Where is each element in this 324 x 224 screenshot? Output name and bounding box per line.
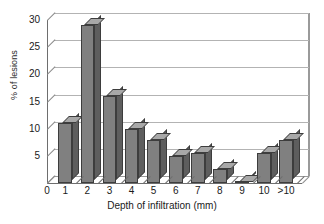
y-tick-connector-5 bbox=[47, 156, 57, 166]
bar-front-face bbox=[257, 153, 271, 183]
plot-area bbox=[47, 13, 309, 183]
y-axis-tick-labels: 51015202530 bbox=[18, 0, 40, 224]
x-tick-label->10: >10 bbox=[272, 186, 300, 196]
y-tick-connector-10 bbox=[47, 129, 57, 139]
plot-right-edge bbox=[309, 13, 310, 176]
y-tick-label-25: 25 bbox=[18, 42, 40, 52]
bar-6 bbox=[169, 156, 183, 183]
y-tick-label-5: 5 bbox=[18, 151, 40, 161]
bar-front-face bbox=[191, 153, 205, 183]
y-tick-label-15: 15 bbox=[18, 97, 40, 107]
bar-1 bbox=[58, 123, 72, 183]
bar-side-face bbox=[94, 15, 101, 180]
bar-chart: % of lesions 51015202530 012345678910>10… bbox=[0, 0, 324, 224]
y-tick-label-20: 20 bbox=[18, 69, 40, 79]
bar-front-face bbox=[81, 25, 95, 183]
y-tick-connector-20 bbox=[47, 74, 57, 84]
bar-front-face bbox=[125, 129, 139, 183]
y-tick-connector-15 bbox=[47, 102, 57, 112]
gridline-30 bbox=[54, 13, 309, 14]
bar-7 bbox=[191, 153, 205, 183]
bar-2 bbox=[81, 25, 95, 183]
bar-4 bbox=[125, 129, 139, 183]
y-tick-label-10: 10 bbox=[18, 124, 40, 134]
bar-front-face bbox=[58, 123, 72, 183]
bar-3 bbox=[103, 96, 117, 183]
y-tick-connector-25 bbox=[47, 47, 57, 57]
bar-side-face bbox=[116, 86, 123, 180]
y-tick-label-30: 30 bbox=[18, 15, 40, 25]
bar-front-face bbox=[103, 96, 117, 183]
bar-front-face bbox=[169, 156, 183, 183]
x-axis-title: Depth of infiltration (mm) bbox=[0, 200, 324, 211]
bar-10 bbox=[257, 153, 271, 183]
y-tick-connector-30 bbox=[47, 20, 57, 30]
